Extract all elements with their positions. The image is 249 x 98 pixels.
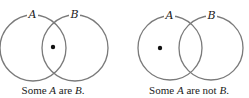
dot-a-only bbox=[158, 46, 162, 50]
label-a-left: A bbox=[28, 8, 37, 21]
circle-a-left bbox=[0, 15, 66, 81]
label-b-right: B bbox=[206, 9, 215, 22]
venn-some-a-are-not-b: A B Some A are not B. bbox=[138, 9, 243, 96]
venn-some-a-are-b: A B Some A are B. bbox=[0, 8, 108, 96]
venn-diagrams: A B Some A are B. A B Some A are not B. bbox=[0, 0, 249, 98]
label-a-right: A bbox=[165, 9, 174, 22]
caption-right: Some A are not B. bbox=[149, 84, 229, 96]
dot-intersection bbox=[51, 45, 55, 49]
circle-b-right bbox=[179, 16, 243, 80]
label-b-left: B bbox=[69, 8, 78, 21]
circle-a-right bbox=[138, 16, 202, 80]
caption-left: Some A are B. bbox=[22, 84, 85, 96]
